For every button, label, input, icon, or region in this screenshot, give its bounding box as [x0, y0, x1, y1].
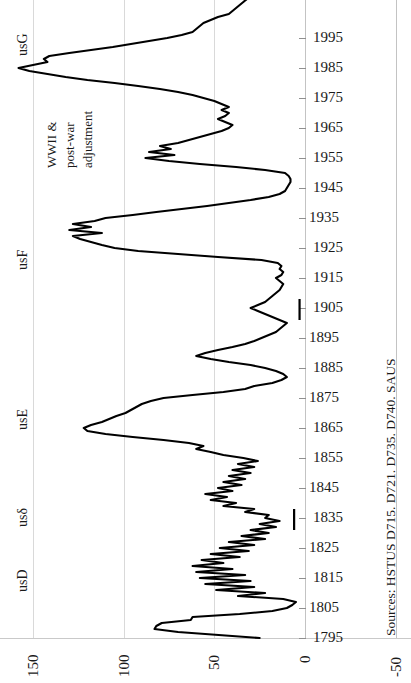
series-svg [0, 0, 411, 683]
plot-area: 1995 1985 1975 1965 1955 1945 1935 1925 … [0, 0, 411, 683]
chart-root: 1995 1985 1975 1965 1955 1945 1935 1925 … [0, 0, 411, 683]
series-markers [294, 299, 299, 530]
series-line-us [18, 0, 295, 638]
